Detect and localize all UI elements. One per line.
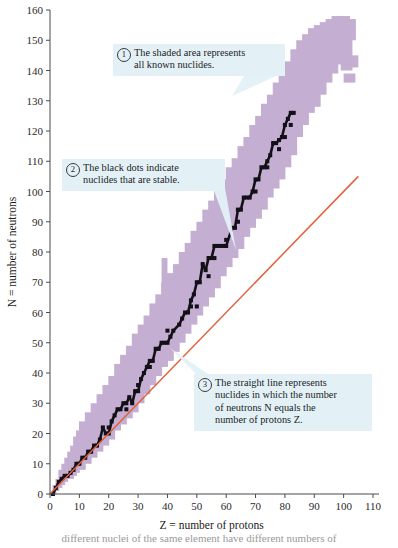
callout-1-line2: all known nuclides. — [134, 59, 280, 71]
svg-text:80: 80 — [279, 500, 291, 512]
svg-text:0: 0 — [38, 488, 44, 500]
svg-text:20: 20 — [103, 500, 115, 512]
svg-text:100: 100 — [335, 500, 352, 512]
svg-text:70: 70 — [250, 500, 262, 512]
svg-text:N = number of neutrons: N = number of neutrons — [6, 196, 18, 307]
svg-text:110: 110 — [27, 155, 44, 167]
svg-text:Z = number of protons: Z = number of protons — [159, 519, 264, 532]
svg-text:30: 30 — [133, 500, 145, 512]
svg-text:50: 50 — [32, 337, 44, 349]
svg-text:50: 50 — [191, 500, 203, 512]
svg-text:60: 60 — [221, 500, 233, 512]
chart-canvas: 0102030405060708090100110120130140150160… — [0, 0, 398, 548]
svg-text:150: 150 — [27, 34, 44, 46]
svg-text:160: 160 — [27, 4, 44, 16]
svg-text:30: 30 — [32, 397, 44, 409]
callout-1-text: The shaded area represents all known nuc… — [134, 47, 280, 72]
svg-text:110: 110 — [365, 500, 382, 512]
callout-2-number: 2 — [66, 163, 80, 177]
svg-text:130: 130 — [27, 95, 44, 107]
callout-3-line1: The straight line represents — [215, 377, 367, 389]
svg-text:70: 70 — [32, 276, 44, 288]
callout-3-line3: of neutrons N equals the — [215, 402, 367, 414]
svg-text:90: 90 — [32, 216, 44, 228]
svg-text:10: 10 — [32, 458, 44, 470]
svg-text:60: 60 — [32, 307, 44, 319]
callout-3-line4: number of protons Z. — [215, 414, 367, 426]
svg-text:120: 120 — [27, 125, 44, 137]
nuclide-chart-figure: 0102030405060708090100110120130140150160… — [0, 0, 398, 548]
callout-2-text: The black dots indicate nuclides that ar… — [83, 162, 220, 187]
callout-1-number: 1 — [117, 48, 131, 62]
callout-3-line2: nuclides in which the number — [215, 389, 367, 401]
callout-3-number: 3 — [198, 378, 212, 392]
svg-text:80: 80 — [32, 246, 44, 258]
callout-1-line1: The shaded area represents — [134, 47, 280, 59]
callout-3-text: The straight line represents nuclides in… — [215, 377, 367, 427]
svg-text:40: 40 — [32, 367, 44, 379]
callout-2: 2 The black dots indicate nuclides that … — [62, 159, 225, 191]
callout-1: 1 The shaded area represents all known n… — [113, 44, 285, 76]
svg-text:40: 40 — [162, 500, 174, 512]
svg-text:100: 100 — [27, 186, 44, 198]
svg-text:0: 0 — [47, 500, 53, 512]
callout-2-line2: nuclides that are stable. — [83, 174, 220, 186]
page-caption-fragment: different nuclei of the same element hav… — [0, 532, 398, 548]
svg-text:20: 20 — [32, 428, 44, 440]
svg-text:10: 10 — [74, 500, 86, 512]
svg-text:90: 90 — [309, 500, 321, 512]
callout-3: 3 The straight line represents nuclides … — [194, 374, 372, 431]
svg-text:140: 140 — [27, 65, 44, 77]
callout-2-line1: The black dots indicate — [83, 162, 220, 174]
